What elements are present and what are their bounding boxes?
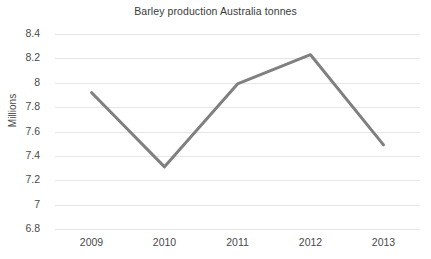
y-axis-tick-label: 8.4 [0, 27, 40, 39]
x-axis-tick-label: 2013 [354, 236, 414, 248]
y-axis-tick-label: 7 [0, 198, 40, 210]
x-axis-tick-label: 2010 [135, 236, 195, 248]
line-series-barley-production [92, 55, 384, 167]
y-axis-tick-label: 8 [0, 76, 40, 88]
y-axis-tick-label: 6.8 [0, 222, 40, 234]
y-axis-tick-label: 7.6 [0, 125, 40, 137]
y-axis-tick-label: 7.4 [0, 149, 40, 161]
y-axis-tick-label: 7.2 [0, 173, 40, 185]
y-axis-tick-label: 7.8 [0, 100, 40, 112]
x-axis-tick-label: 2012 [281, 236, 341, 248]
chart-container: Barley production Australia tonnes Milli… [0, 0, 431, 259]
y-axis-tick-label: 8.2 [0, 51, 40, 63]
plot-area: 8.48.287.87.67.47.276.8 2009201020112012… [55, 34, 420, 229]
line-series-layer [55, 34, 420, 229]
x-axis-tick-label: 2011 [208, 236, 268, 248]
x-axis-tick-label: 2009 [62, 236, 122, 248]
gridline [55, 229, 420, 230]
chart-title: Barley production Australia tonnes [0, 5, 431, 17]
